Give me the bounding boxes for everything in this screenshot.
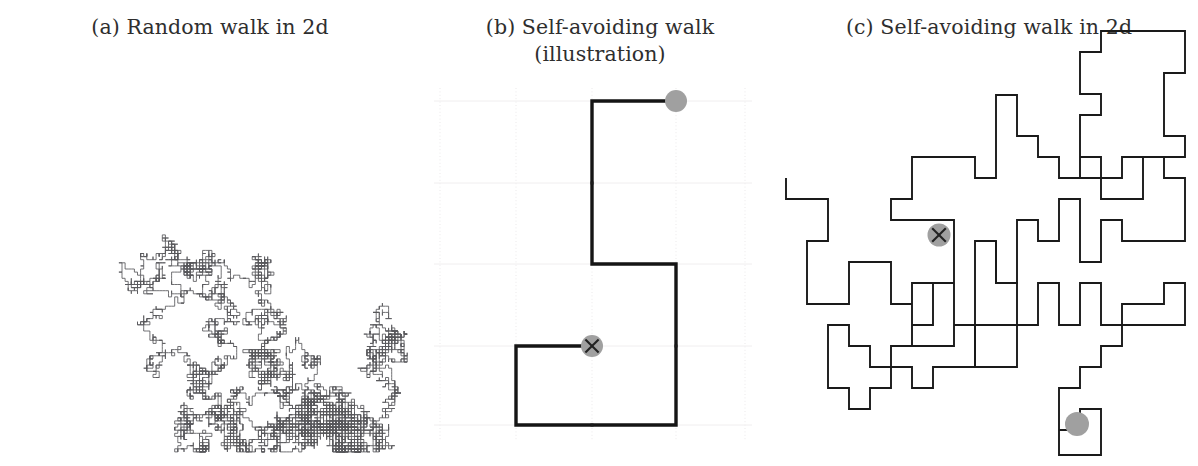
random-walk-2d-svg — [0, 0, 420, 466]
saw-illustration-path — [516, 101, 676, 425]
saw-2d-svg — [780, 0, 1198, 466]
panel-b: (b) Self-avoiding walk (illustration) — [420, 0, 780, 466]
saw-2d-path-group — [786, 31, 1185, 409]
saw-illustration-svg — [420, 0, 780, 466]
lattice-node-dot — [675, 345, 678, 348]
random-walk-path-group — [119, 235, 407, 452]
end-marker-dot — [665, 90, 687, 112]
start-marker-x — [581, 335, 603, 357]
lattice-node-dots — [591, 182, 678, 427]
panel-b-plot — [420, 0, 780, 466]
panel-a-plot — [0, 0, 420, 466]
random-walk-path — [119, 235, 407, 452]
end-marker-circle — [1065, 412, 1089, 436]
end-marker-dot — [1065, 412, 1089, 436]
panel-c-plot — [780, 0, 1198, 466]
saw-2d-path — [786, 31, 1185, 409]
panel-c: (c) Self-avoiding walk in 2d — [780, 0, 1198, 466]
end-marker-circle — [665, 90, 687, 112]
panel-a: (a) Random walk in 2d — [0, 0, 420, 466]
lattice-node-dot — [591, 182, 594, 185]
figure-container: (a) Random walk in 2d (b) Self-avoiding … — [0, 0, 1198, 466]
saw-illustration-path-group — [516, 101, 676, 425]
lattice-node-dot — [591, 424, 594, 427]
start-marker-x — [928, 224, 951, 247]
